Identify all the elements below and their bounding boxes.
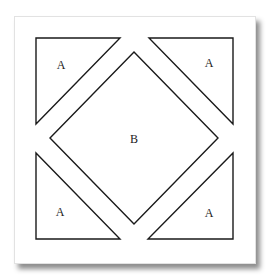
label-a-top-left: A (57, 58, 66, 72)
label-a-bottom-left: A (56, 205, 65, 219)
label-b-center: B (130, 132, 138, 146)
quilt-block-diagram: A A A A B (0, 0, 269, 276)
label-a-top-right: A (205, 56, 214, 70)
label-a-bottom-right: A (205, 206, 214, 220)
